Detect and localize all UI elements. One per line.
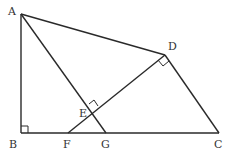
right-angle-mark-D bbox=[158, 60, 169, 66]
label-G: G bbox=[101, 138, 110, 151]
label-C: C bbox=[214, 138, 222, 151]
label-A: A bbox=[7, 5, 17, 18]
segment-DF bbox=[68, 55, 165, 133]
label-B: B bbox=[9, 138, 17, 151]
segment-DA bbox=[21, 14, 165, 55]
label-D: D bbox=[168, 40, 177, 53]
segment-CD bbox=[165, 55, 219, 133]
label-F: F bbox=[63, 138, 71, 151]
geometry-diagram: A B C D E F G bbox=[0, 0, 236, 157]
label-E: E bbox=[79, 107, 87, 120]
right-angle-mark-B bbox=[21, 126, 28, 133]
right-angle-mark-E bbox=[89, 100, 98, 106]
segment-AG bbox=[21, 14, 106, 133]
